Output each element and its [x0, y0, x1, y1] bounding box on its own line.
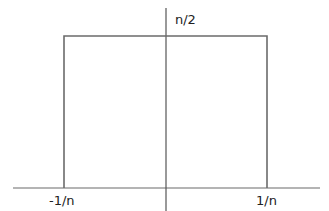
left-tick-label: -1/n — [49, 193, 75, 208]
right-tick-label: 1/n — [256, 193, 277, 208]
height-label: n/2 — [175, 12, 196, 27]
pulse-chart: n/2 -1/n 1/n — [0, 0, 329, 211]
